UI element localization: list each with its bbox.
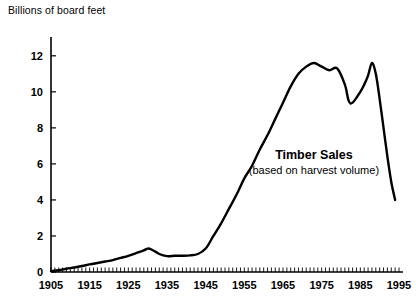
y-axis-title: Billions of board feet <box>8 4 105 16</box>
y-tick-label: 12 <box>31 50 43 62</box>
x-tick-label: 1905 <box>39 279 63 291</box>
x-tick-label: 1915 <box>77 279 101 291</box>
x-tick-label: 1975 <box>309 279 333 291</box>
x-axis-ticks: 1905191519251935194519551965197519851995 <box>39 268 411 292</box>
annotation-group: Timber Sales(based on harvest volume) <box>249 148 379 176</box>
y-tick-label: 8 <box>37 122 43 134</box>
y-tick-label: 2 <box>37 230 43 242</box>
x-tick-label: 1965 <box>271 279 295 291</box>
y-tick-label: 4 <box>37 194 44 206</box>
x-tick-label: 1925 <box>116 279 140 291</box>
y-tick-label: 6 <box>37 158 43 170</box>
y-axis-ticks: 024681012 <box>31 50 56 278</box>
y-tick-label: 0 <box>37 266 43 278</box>
x-tick-label: 1945 <box>193 279 217 291</box>
timber-sales-chart: Billions of board feet 024681012 1905191… <box>0 0 416 300</box>
annotation-subtitle: (based on harvest volume) <box>249 164 379 176</box>
y-tick-label: 10 <box>31 86 43 98</box>
chart-canvas: Billions of board feet 024681012 1905191… <box>0 0 416 300</box>
x-tick-label: 1995 <box>387 279 411 291</box>
x-tick-label: 1985 <box>348 279 372 291</box>
annotation-title: Timber Sales <box>275 148 353 162</box>
x-tick-label: 1955 <box>232 279 256 291</box>
x-tick-label: 1935 <box>155 279 179 291</box>
